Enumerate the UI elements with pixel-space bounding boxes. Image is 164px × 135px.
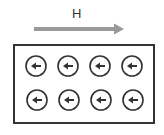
domain-moment-left-arrow-icon (90, 56, 110, 76)
domain-moment-left-arrow-icon (123, 90, 143, 110)
domain-moment-left-arrow-icon (122, 56, 142, 76)
domain-moment-left-arrow-icon (59, 90, 79, 110)
magnetic-domains (26, 56, 143, 110)
field-arrow-icon (34, 24, 124, 35)
domain-moment-left-arrow-icon (91, 90, 111, 110)
domain-moment-left-arrow-icon (27, 90, 47, 110)
domain-moment-left-arrow-icon (58, 56, 78, 76)
diagram-canvas (0, 0, 164, 135)
domain-moment-left-arrow-icon (26, 56, 46, 76)
